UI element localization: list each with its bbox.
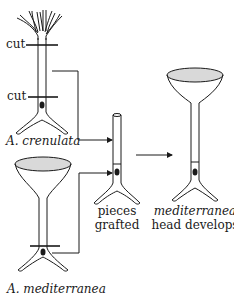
connector-crenulata-to-grafted — [52, 71, 112, 140]
grafted-label-line2: grafted — [92, 219, 142, 232]
mediterranea-cell — [15, 157, 71, 271]
crenulata-rhizoid — [16, 112, 68, 134]
result-cell — [167, 68, 223, 201]
species-label-crenulata: A. crenulata — [6, 135, 80, 148]
mediterranea-nucleus — [41, 249, 46, 256]
result-label-line2: head develops — [148, 219, 234, 232]
crenulata-nucleus — [40, 102, 45, 109]
grafted-nucleus — [115, 169, 120, 176]
species-label-mediterranea: A. mediterranea — [7, 283, 106, 296]
cut-label-bottom: cut — [7, 90, 26, 103]
result-nucleus — [193, 169, 198, 176]
grafted-label-line1: pieces — [92, 205, 142, 218]
crenulata-fronds — [17, 10, 62, 40]
result-label-line1: mediterranea — [150, 205, 234, 218]
grafted-cell — [94, 114, 140, 205]
mediterranea-cap — [15, 157, 71, 171]
result-cap — [167, 68, 223, 82]
grafting-diagram — [0, 0, 234, 299]
cut-label-top: cut — [6, 38, 25, 51]
crenulata-cell — [16, 10, 68, 134]
